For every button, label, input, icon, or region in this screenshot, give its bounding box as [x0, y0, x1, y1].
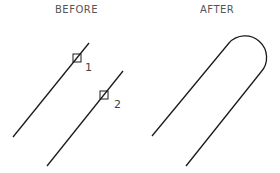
after-drawing [152, 36, 267, 166]
point-2-label: 2 [114, 98, 121, 111]
point-1-label: 1 [85, 61, 92, 74]
before-drawing [13, 43, 123, 166]
before-line-1 [13, 43, 89, 137]
fillet-result-path [152, 36, 267, 166]
diagram-canvas [0, 0, 280, 173]
before-line-2 [47, 71, 123, 166]
